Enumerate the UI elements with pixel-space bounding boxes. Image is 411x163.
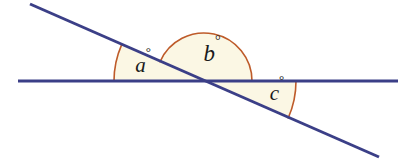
lines-group <box>18 4 398 157</box>
geometry-figure: a° b° c° <box>0 0 411 163</box>
geometry-canvas: a° b° c° <box>0 0 411 163</box>
